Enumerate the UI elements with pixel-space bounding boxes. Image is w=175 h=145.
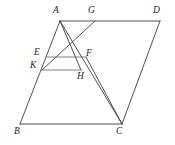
vertex-label-B: B	[14, 126, 20, 136]
parallelogram-outline	[20, 21, 160, 124]
vertex-label-G: G	[88, 5, 95, 15]
vertex-label-C: C	[116, 126, 122, 136]
segment-AH	[60, 21, 81, 70]
side-DC	[122, 21, 160, 124]
vertex-label-A: A	[53, 5, 59, 15]
geometry-figure: A G D E F K H B C	[0, 0, 175, 145]
vertex-label-H: H	[77, 71, 84, 81]
vertex-label-K: K	[30, 60, 36, 70]
segment-AC	[60, 21, 122, 124]
side-AB	[20, 21, 60, 124]
vertex-label-F: F	[86, 48, 92, 58]
vertex-label-E: E	[34, 47, 40, 57]
geometry-canvas	[0, 0, 175, 145]
segment-FC	[86, 57, 122, 124]
segment-GK	[42, 21, 95, 70]
vertex-label-D: D	[153, 5, 160, 15]
